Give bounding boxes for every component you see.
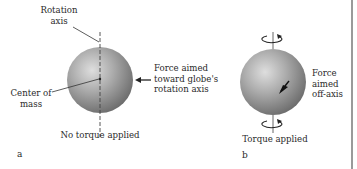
center-of-mass-label-line2: mass: [8, 99, 54, 110]
rotation-axis-label-line1: Rotation: [34, 5, 84, 16]
force-label-line3: rotation axis: [154, 84, 218, 95]
force-arrow-icon: [135, 77, 151, 83]
panel-letter-a: a: [17, 149, 22, 159]
no-torque-caption: No torque applied: [50, 130, 150, 141]
rotation-axis-label: Rotation axis: [34, 5, 84, 26]
page-edge-divider: [351, 0, 353, 169]
rotation-axis-label-line2: axis: [34, 16, 84, 27]
force-off-axis-label: Force aimed off-axis: [312, 68, 343, 100]
off-axis-label-line2: aimed: [312, 79, 343, 90]
panel-b-globe: [240, 49, 306, 115]
center-of-mass-label: Center of mass: [8, 88, 54, 109]
force-label-line2: toward globe's: [154, 74, 218, 85]
force-label-line1: Force aimed: [154, 63, 218, 74]
torque-applied-caption: Torque applied: [230, 134, 320, 145]
off-axis-label-line1: Force: [312, 68, 343, 79]
center-of-mass-label-line1: Center of: [8, 88, 54, 99]
off-axis-label-line3: off-axis: [312, 89, 343, 100]
rotation-arrow-top-icon: [262, 34, 282, 43]
rotation-axis-leader-line: [73, 27, 99, 42]
panel-letter-b: b: [242, 150, 248, 160]
force-toward-axis-label: Force aimed toward globe's rotation axis: [154, 63, 218, 95]
center-of-mass-dot: [99, 78, 101, 80]
rotation-arrow-bottom-icon: [262, 119, 282, 128]
